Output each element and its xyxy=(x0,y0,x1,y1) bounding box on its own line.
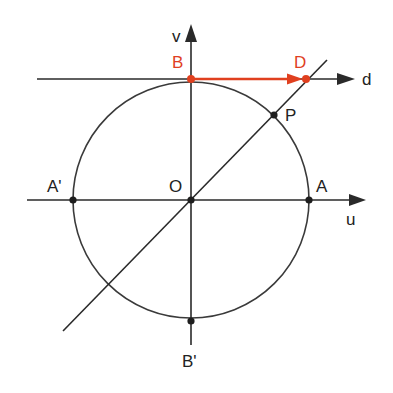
label-p: P xyxy=(285,106,296,125)
label-b-prime: B' xyxy=(182,352,197,371)
point-a xyxy=(305,196,312,203)
label-d-point: D xyxy=(294,53,306,72)
point-b-prime xyxy=(187,317,194,324)
point-p xyxy=(270,111,277,118)
label-a: A xyxy=(316,177,328,196)
d-axis-arrow-icon xyxy=(337,73,355,85)
label-d: d xyxy=(362,70,371,89)
point-a-prime xyxy=(69,196,76,203)
u-axis-arrow-icon xyxy=(349,194,366,206)
label-a-prime: A' xyxy=(47,177,62,196)
label-u: u xyxy=(346,210,355,229)
label-o: O xyxy=(169,177,182,196)
label-v: v xyxy=(172,27,181,46)
point-b xyxy=(187,75,195,83)
vector-bd-arrow-icon xyxy=(287,74,303,85)
diagonal-line xyxy=(63,60,327,331)
v-axis-arrow-icon xyxy=(185,24,197,42)
unit-circle-diagram: v d u B D P O A A' B' xyxy=(0,0,393,393)
point-d xyxy=(302,75,310,83)
point-o xyxy=(187,196,194,203)
label-b: B xyxy=(172,53,183,72)
